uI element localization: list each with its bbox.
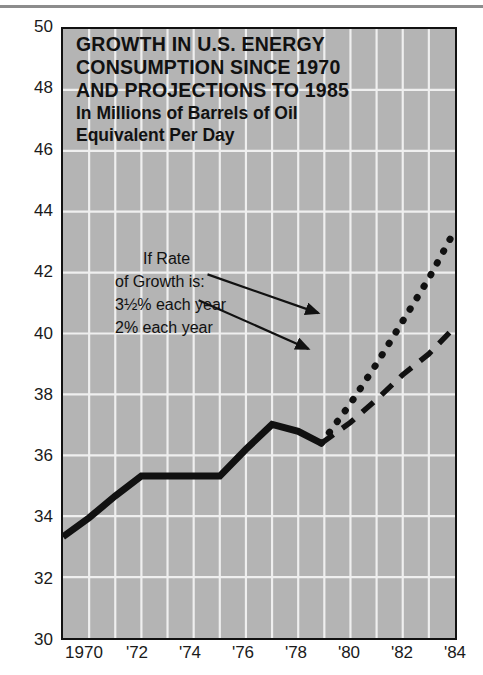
x-tick-1980: '80	[338, 643, 360, 663]
title-line-1: GROWTH IN U.S. ENERGY	[76, 33, 406, 56]
annotation-of-growth-is: of Growth is:	[115, 270, 325, 293]
y-tick-38: 38	[34, 385, 53, 405]
y-tick-48: 48	[34, 78, 53, 98]
growth-rate-annotation-block: If Rate of Growth is: 3½% each year 2% e…	[115, 247, 325, 339]
top-rule-divider	[0, 5, 483, 8]
annotation-3-5-percent-each-year: 3½% each year	[115, 293, 325, 316]
x-tick-1970: 1970	[65, 643, 103, 663]
y-tick-44: 44	[34, 201, 53, 221]
y-tick-42: 42	[34, 262, 53, 282]
energy-consumption-chart-figure: 50 48 46 44 42 40 38 36 34 32 30	[0, 0, 483, 675]
chart-title-block: GROWTH IN U.S. ENERGY CONSUMPTION SINCE …	[76, 33, 406, 146]
annotation-if-rate: If Rate	[115, 247, 325, 270]
y-tick-34: 34	[34, 507, 53, 527]
y-tick-46: 46	[34, 140, 53, 160]
x-tick-1982: '82	[391, 643, 413, 663]
y-tick-32: 32	[34, 569, 53, 589]
x-tick-1984: '84	[444, 643, 466, 663]
x-tick-1974: '74	[179, 643, 201, 663]
x-tick-1976: '76	[232, 643, 254, 663]
y-axis-tick-labels: 50 48 46 44 42 40 38 36 34 32 30	[0, 27, 57, 640]
title-line-3: AND PROJECTIONS TO 1985	[76, 79, 406, 102]
x-tick-1978: '78	[285, 643, 307, 663]
title-line-2: CONSUMPTION SINCE 1970	[76, 56, 406, 79]
plot-area: GROWTH IN U.S. ENERGY CONSUMPTION SINCE …	[61, 27, 457, 640]
series-3-5-percent-projection	[321, 234, 453, 444]
subtitle-line-2: Equivalent Per Day	[76, 124, 406, 146]
y-tick-50: 50	[34, 17, 53, 37]
x-tick-1972: '72	[126, 643, 148, 663]
y-tick-40: 40	[34, 324, 53, 344]
y-tick-36: 36	[34, 446, 53, 466]
subtitle-line-1: In Millions of Barrels of Oil	[76, 102, 406, 124]
x-axis-tick-labels: 1970 '72 '74 '76 '78 '80 '82 '84	[0, 643, 483, 673]
series-actual-consumption	[63, 424, 321, 536]
annotation-2-percent-each-year: 2% each year	[115, 316, 325, 339]
